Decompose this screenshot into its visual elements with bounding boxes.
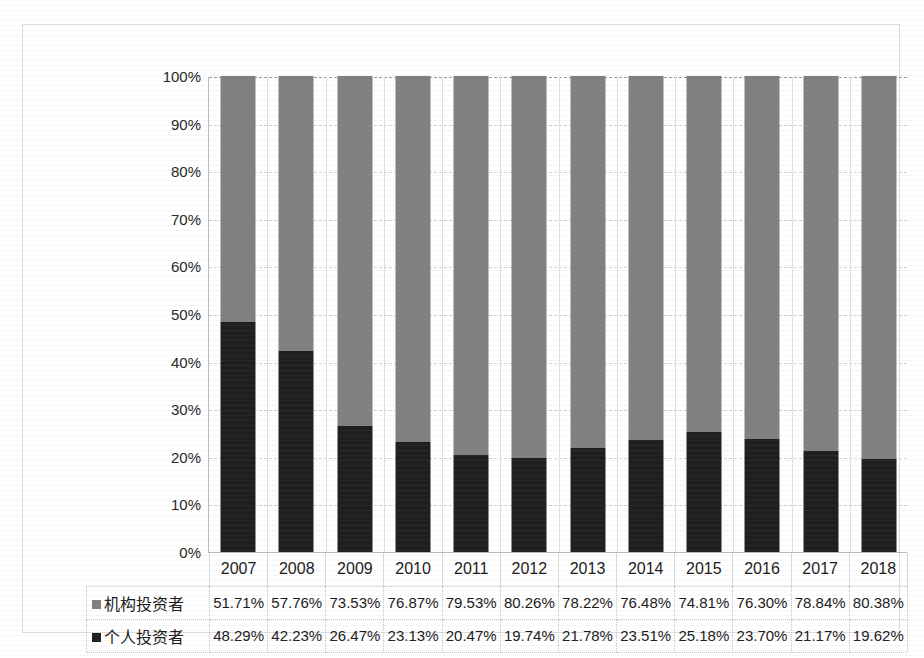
bar-column[interactable]	[675, 77, 733, 552]
table-cell: 76.87%	[384, 586, 442, 619]
y-axis-tick-mark	[197, 125, 201, 126]
table-cell: 73.53%	[326, 586, 384, 619]
table-column-header: 2012	[500, 553, 558, 586]
y-axis-tick-mark	[197, 220, 201, 221]
table-row-header: 机构投资者	[87, 586, 210, 619]
bar-segment-institutional[interactable]	[454, 76, 489, 455]
table-cell: 23.13%	[384, 619, 442, 652]
y-axis-tick-label: 50%	[139, 307, 201, 322]
bar-segment-individual[interactable]	[512, 458, 547, 552]
y-axis-tick-mark	[197, 77, 201, 78]
bar-segment-institutional[interactable]	[628, 76, 663, 440]
table-column-header: 2015	[675, 553, 733, 586]
legend-marker-icon	[92, 600, 101, 609]
y-axis: 100%90%80%70%60%50%40%30%20%10%0%	[131, 77, 201, 553]
y-axis-tick-label: 30%	[139, 402, 201, 417]
y-axis-tick-label: 40%	[139, 355, 201, 370]
table-cell: 42.23%	[268, 619, 326, 652]
y-axis-tick-label: 80%	[139, 164, 201, 179]
bar-column[interactable]	[267, 77, 325, 552]
table-cell: 76.30%	[733, 586, 791, 619]
bar-column[interactable]	[326, 77, 384, 552]
bar-segment-institutional[interactable]	[512, 76, 547, 458]
table-column-header: 2010	[384, 553, 442, 586]
bar-column[interactable]	[384, 77, 442, 552]
legend-marker-icon	[92, 633, 101, 642]
bar-segment-individual[interactable]	[221, 322, 256, 552]
y-axis-tick-label: 60%	[139, 259, 201, 274]
table-cell: 21.78%	[558, 619, 616, 652]
table-column-header: 2014	[617, 553, 675, 586]
table-cell: 23.51%	[617, 619, 675, 652]
table-column-header: 2007	[210, 553, 268, 586]
bar-segment-institutional[interactable]	[221, 76, 256, 322]
bar-segment-individual[interactable]	[570, 448, 605, 552]
table-column-header: 2016	[733, 553, 791, 586]
table-cell: 80.38%	[849, 586, 907, 619]
y-axis-tick-mark	[197, 172, 201, 173]
bar-column[interactable]	[792, 77, 850, 552]
table-cell: 51.71%	[210, 586, 268, 619]
y-axis-tick-label: 100%	[139, 69, 201, 84]
table-row: 机构投资者51.71%57.76%73.53%76.87%79.53%80.26…	[87, 586, 908, 619]
y-axis-tick-mark	[197, 315, 201, 316]
y-axis-tick-mark	[197, 458, 201, 459]
bar-column[interactable]	[850, 77, 908, 552]
table-column-header: 2018	[849, 553, 907, 586]
bar-column[interactable]	[733, 77, 791, 552]
bar-segment-individual[interactable]	[803, 451, 838, 552]
bar-column[interactable]	[559, 77, 617, 552]
bar-segment-individual[interactable]	[279, 351, 314, 552]
bar-column[interactable]	[209, 77, 267, 552]
chart-frame: 100%90%80%70%60%50%40%30%20%10%0% 200720…	[22, 24, 900, 633]
table-header-row: 2007200820092010201120122013201420152016…	[87, 553, 908, 586]
bar-segment-institutional[interactable]	[337, 76, 372, 426]
bar-column[interactable]	[500, 77, 558, 552]
table-column-header: 2008	[268, 553, 326, 586]
table-cell: 76.48%	[617, 586, 675, 619]
bar-segment-institutional[interactable]	[745, 76, 780, 439]
table-cell: 21.17%	[791, 619, 849, 652]
bar-segment-individual[interactable]	[337, 426, 372, 552]
bar-segment-institutional[interactable]	[279, 76, 314, 351]
table-cell: 20.47%	[442, 619, 500, 652]
table-corner-cell	[87, 553, 210, 586]
bar-segment-individual[interactable]	[861, 459, 896, 552]
bar-segment-institutional[interactable]	[687, 76, 722, 432]
bar-segment-institutional[interactable]	[803, 76, 838, 451]
table-column-header: 2009	[326, 553, 384, 586]
table-cell: 19.62%	[849, 619, 907, 652]
bar-segment-individual[interactable]	[395, 442, 430, 552]
bar-segment-individual[interactable]	[687, 432, 722, 552]
table-column-header: 2011	[442, 553, 500, 586]
bar-segment-institutional[interactable]	[861, 76, 896, 459]
bar-column[interactable]	[617, 77, 675, 552]
table-cell: 26.47%	[326, 619, 384, 652]
bar-segment-individual[interactable]	[628, 440, 663, 552]
table-cell: 78.84%	[791, 586, 849, 619]
table-cell: 19.74%	[500, 619, 558, 652]
plot-area	[208, 77, 907, 553]
table-row: 个人投资者48.29%42.23%26.47%23.13%20.47%19.74…	[87, 619, 908, 652]
bar-segment-individual[interactable]	[745, 439, 780, 552]
table-cell: 79.53%	[442, 586, 500, 619]
y-axis-tick-mark	[197, 267, 201, 268]
bar-segment-individual[interactable]	[454, 455, 489, 552]
table-cell: 78.22%	[558, 586, 616, 619]
table-cell: 80.26%	[500, 586, 558, 619]
y-axis-tick-mark	[197, 363, 201, 364]
y-axis-tick-label: 20%	[139, 450, 201, 465]
bar-segment-institutional[interactable]	[570, 76, 605, 448]
series-label: 机构投资者	[104, 596, 184, 613]
y-axis-tick-label: 90%	[139, 117, 201, 132]
table-column-header: 2017	[791, 553, 849, 586]
data-table: 2007200820092010201120122013201420152016…	[86, 553, 908, 653]
table-column-header: 2013	[558, 553, 616, 586]
table-cell: 74.81%	[675, 586, 733, 619]
y-axis-tick-label: 70%	[139, 212, 201, 227]
bar-segment-institutional[interactable]	[395, 76, 430, 442]
bars-layer	[209, 77, 907, 552]
series-label: 个人投资者	[104, 629, 184, 646]
bar-column[interactable]	[442, 77, 500, 552]
chart-title	[0, 0, 924, 9]
